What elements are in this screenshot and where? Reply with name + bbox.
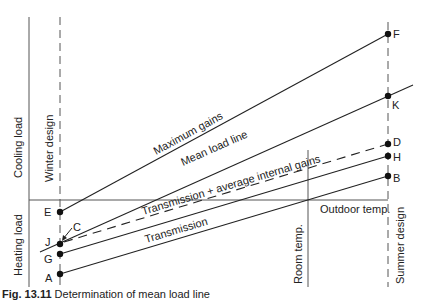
figure-caption: Fig. 13.11 Determination of mean load li… bbox=[2, 288, 210, 300]
label-h: H bbox=[393, 151, 401, 163]
point-a bbox=[57, 271, 63, 277]
room-temp-label: Room temp. bbox=[292, 224, 304, 284]
winter-design-label: Winter design bbox=[43, 115, 55, 182]
outdoor-temp-label: Outdoor temp. bbox=[320, 203, 390, 215]
point-k bbox=[385, 93, 391, 99]
point-b bbox=[385, 173, 391, 179]
label-b: B bbox=[393, 172, 400, 184]
point-h bbox=[385, 153, 391, 159]
label-k: K bbox=[392, 99, 400, 111]
mean-load-line bbox=[40, 85, 413, 252]
label-e: E bbox=[44, 206, 51, 218]
caption-text: Determination of mean load line bbox=[55, 288, 210, 300]
summer-design-label: Summer design bbox=[394, 207, 406, 284]
label-d: D bbox=[393, 136, 401, 148]
label-f: F bbox=[393, 28, 400, 40]
point-f bbox=[385, 31, 391, 37]
caption-number: Fig. 13.11 bbox=[2, 288, 52, 300]
transmission-avg-gains-dashed-line bbox=[64, 144, 388, 242]
point-g bbox=[57, 251, 63, 257]
label-a: A bbox=[45, 272, 53, 284]
cooling-load-label: Cooling load bbox=[12, 117, 24, 178]
point-d bbox=[385, 141, 391, 147]
point-e bbox=[57, 209, 63, 215]
point-j bbox=[57, 241, 63, 247]
trans-avg-gains-label: Transmission + average internal gains bbox=[140, 152, 322, 217]
label-c: C bbox=[73, 221, 81, 233]
label-g: G bbox=[44, 253, 53, 265]
heating-load-label: Heating load bbox=[12, 214, 24, 276]
label-j: J bbox=[45, 236, 51, 248]
